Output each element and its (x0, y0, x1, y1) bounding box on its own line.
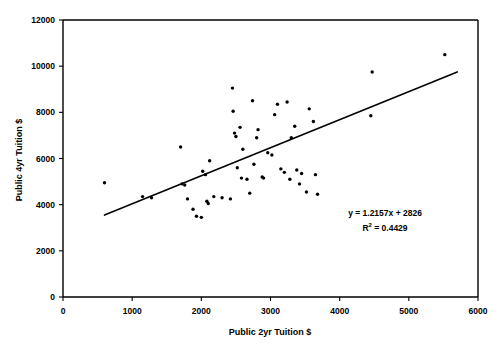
x-tick-label: 4000 (330, 306, 349, 316)
data-point (370, 70, 373, 73)
y-tick-label: 4000 (36, 200, 55, 210)
chart-figure: · · · · · 020004000600080001000012000 01… (0, 0, 502, 350)
data-point (283, 171, 286, 174)
data-point (229, 197, 232, 200)
axis-frame (63, 20, 478, 297)
y-tick-label: 8000 (36, 107, 55, 117)
data-point (240, 176, 243, 179)
data-point (293, 124, 296, 127)
x-tick-label: 3000 (261, 306, 280, 316)
data-point (195, 215, 198, 218)
data-point (288, 178, 291, 181)
x-tick-label: 5000 (399, 306, 418, 316)
y-tick-label: 12000 (31, 15, 55, 25)
regression-annotation: y = 1.2157x + 2826 R2 = 0.4429 (348, 208, 422, 233)
r-squared-value: = 0.4429 (372, 223, 408, 233)
data-point (207, 202, 210, 205)
data-point (231, 86, 234, 89)
data-point (273, 113, 276, 116)
x-tick-label: 6000 (469, 306, 488, 316)
data-point (252, 163, 255, 166)
y-tick-label: 6000 (36, 154, 55, 164)
data-point (369, 114, 372, 117)
x-axis-ticks: 0100020003000400050006000 (61, 297, 488, 316)
data-point (208, 159, 211, 162)
data-point (285, 100, 288, 103)
data-point (276, 103, 279, 106)
x-axis-title: Public 2yr Tuition $ (229, 327, 311, 337)
data-point (241, 148, 244, 151)
trendline (105, 72, 458, 215)
r-squared-label: R2 = 0.4429 (362, 222, 407, 233)
scatter-plot: 020004000600080001000012000 010002000300… (0, 0, 502, 350)
data-point (314, 173, 317, 176)
data-point (231, 109, 234, 112)
data-point (238, 126, 241, 129)
data-point (279, 167, 282, 170)
data-point (141, 195, 144, 198)
data-point (295, 168, 298, 171)
y-tick-label: 10000 (31, 61, 55, 71)
y-tick-label: 2000 (36, 246, 55, 256)
data-point (220, 196, 223, 199)
data-point (316, 193, 319, 196)
data-point (255, 136, 258, 139)
data-point (212, 195, 215, 198)
data-point (183, 183, 186, 186)
data-point (266, 151, 269, 154)
data-point (191, 208, 194, 211)
y-axis-ticks: 020004000600080001000012000 (31, 15, 63, 302)
y-axis-title: Public 4yr Tuition $ (14, 119, 24, 201)
data-point (186, 197, 189, 200)
x-tick-label: 2000 (192, 306, 211, 316)
data-point (298, 182, 301, 185)
data-point (233, 131, 236, 134)
regression-equation-label: y = 1.2157x + 2826 (348, 208, 422, 218)
data-point (443, 53, 446, 56)
data-point (201, 169, 204, 172)
data-point (234, 135, 237, 138)
data-point (236, 166, 239, 169)
x-tick-label: 0 (61, 306, 66, 316)
data-point (308, 107, 311, 110)
data-point (245, 178, 248, 181)
data-point (256, 128, 259, 131)
data-point (312, 120, 315, 123)
x-tick-label: 1000 (123, 306, 142, 316)
data-point (200, 216, 203, 219)
data-point (305, 190, 308, 193)
data-point (179, 145, 182, 148)
y-tick-label: 0 (50, 292, 55, 302)
data-point (251, 99, 254, 102)
data-point (103, 181, 106, 184)
data-point (300, 172, 303, 175)
data-point (248, 191, 251, 194)
data-point (262, 176, 265, 179)
data-point (270, 153, 273, 156)
